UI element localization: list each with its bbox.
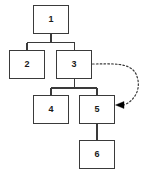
node-2[interactable]: 2 bbox=[9, 50, 45, 79]
tree-diagram: 1 2 3 4 5 6 bbox=[0, 0, 153, 173]
node-1-label: 1 bbox=[48, 15, 53, 24]
node-6-label: 6 bbox=[94, 150, 99, 159]
node-3[interactable]: 3 bbox=[56, 50, 92, 79]
node-5[interactable]: 5 bbox=[79, 95, 115, 124]
node-2-label: 2 bbox=[24, 60, 29, 69]
node-3-label: 3 bbox=[71, 60, 76, 69]
node-6[interactable]: 6 bbox=[79, 140, 115, 169]
node-5-label: 5 bbox=[94, 105, 99, 114]
node-1[interactable]: 1 bbox=[33, 5, 69, 34]
arrowhead-icon bbox=[116, 102, 125, 109]
edge-3-to-children bbox=[51, 79, 97, 95]
edge-1-to-children bbox=[27, 34, 75, 50]
edge-layer bbox=[0, 0, 153, 173]
node-4-label: 4 bbox=[48, 105, 53, 114]
node-4[interactable]: 4 bbox=[33, 95, 69, 124]
